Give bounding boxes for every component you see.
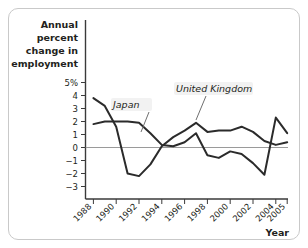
x-tick-label-1996: 1996: [162, 201, 184, 223]
y-axis-title-line-2: percent: [37, 32, 79, 43]
line-chart: Annual percent change in employment 5% 4…: [0, 0, 308, 248]
y-axis-title-line-4: employment: [11, 58, 78, 69]
y-tick-label-neg2: −2: [65, 169, 78, 179]
x-tick-label-2002: 2002: [231, 201, 253, 223]
series-annotation-japan: Japan: [111, 99, 140, 110]
y-axis-title-line-1: Annual: [41, 19, 78, 30]
x-tick-label-1998: 1998: [185, 201, 207, 223]
y-axis-title-line-3: change in: [26, 45, 78, 56]
y-tick-label-neg1: −1: [65, 156, 78, 166]
chart-figure: Annual percent change in employment 5% 4…: [0, 0, 308, 248]
x-tick-label-1992: 1992: [117, 201, 139, 223]
x-tick-label-2000: 2000: [208, 201, 230, 223]
x-axis-title: Year: [264, 227, 289, 238]
x-tick-label-1990: 1990: [94, 201, 116, 223]
y-tick-label-1: 1: [73, 130, 78, 140]
y-tick-label-2: 2: [73, 117, 78, 127]
x-axis-ticks: [93, 199, 287, 204]
uk-leader-line: [196, 96, 206, 120]
x-axis-tick-labels: 1988 1990 1992 1994 1996 1998 2000 2002 …: [71, 201, 287, 223]
y-tick-label-neg3: −3: [65, 182, 78, 192]
y-tick-label-3: 3: [73, 104, 78, 114]
y-tick-label-4: 4: [73, 91, 78, 101]
y-axis-tick-labels: 5% 4 3 2 1 0 −1 −2 −3: [65, 78, 79, 192]
x-tick-label-1988: 1988: [71, 201, 93, 223]
y-tick-label-0: 0: [73, 143, 78, 153]
y-tick-label-5: 5%: [65, 78, 79, 88]
series-annotation-united-kingdom: United Kingdom: [176, 83, 252, 94]
x-tick-label-1994: 1994: [139, 201, 161, 223]
